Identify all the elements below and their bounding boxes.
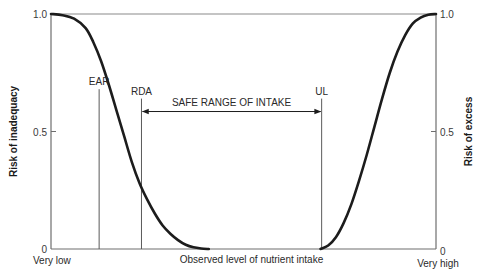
right-tick-label-1-0: 1.0 (440, 9, 454, 20)
chart-labels: 0 0.5 1.0 0 0.5 1.0 Risk of inadequacy R… (8, 9, 474, 269)
x-axis-title: Observed level of nutrient intake (180, 254, 324, 265)
reference-lines (99, 89, 322, 249)
x-label-very-high: Very high (417, 258, 459, 269)
left-tick-label-1-0: 1.0 (33, 9, 47, 20)
right-tick-label-0: 0 (440, 246, 446, 257)
y-axis-left-title: Risk of inadequacy (8, 85, 19, 177)
ear-label: EAR (89, 76, 110, 87)
right-tick-label-0-5: 0.5 (440, 127, 454, 138)
left-tick-label-0-5: 0.5 (33, 127, 47, 138)
risk-of-inadequacy-curve (51, 14, 209, 249)
left-tick-label-0: 0 (41, 244, 47, 255)
rda-label: RDA (131, 86, 152, 97)
ul-label: UL (315, 86, 328, 97)
chart-frame (51, 14, 436, 249)
risk-curves (51, 14, 436, 249)
y-axis-right-title: Risk of excess (463, 96, 474, 166)
safe-range-label: SAFE RANGE OF INTAKE (172, 97, 292, 108)
risk-curve-chart: 0 0.5 1.0 0 0.5 1.0 Risk of inadequacy R… (0, 0, 482, 279)
risk-of-excess-curve (321, 14, 437, 249)
x-label-very-low: Very low (33, 255, 72, 266)
